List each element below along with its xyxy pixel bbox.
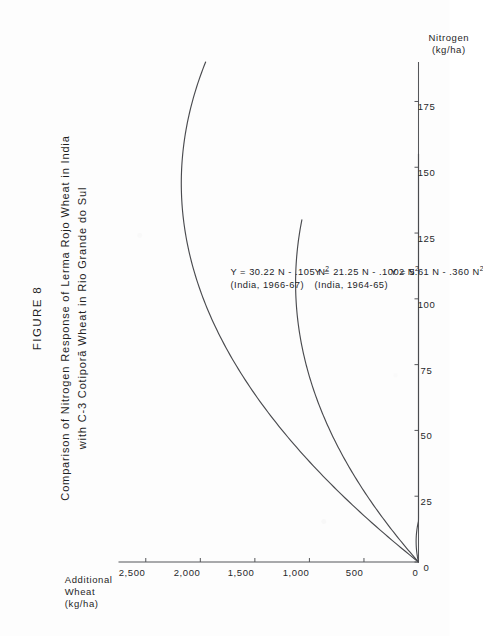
- x-axis-tick-label: 125: [417, 233, 435, 244]
- curve-series-1: [181, 62, 418, 562]
- x-axis-title-line-1: Nitrogen: [428, 32, 469, 44]
- y-axis-tick-label: 0: [412, 567, 418, 578]
- y-axis-tick-label: 1,000: [282, 567, 309, 578]
- y-axis-title-line-2: Wheat: [64, 586, 112, 598]
- x-axis-tick-label: 175: [417, 101, 435, 112]
- curve-series-3: [416, 154, 418, 562]
- x-axis-title-line-2: (kg/ha): [428, 44, 469, 56]
- annotation-source: (India, 1964-65): [314, 279, 419, 292]
- caption-line-2: with C-3 Cotiporã Wheat in Rio Grande do…: [73, 0, 90, 636]
- annotation-exponent: 2: [479, 265, 483, 272]
- x-axis-tick-label: 75: [420, 365, 432, 376]
- y-axis-tick-label: 2,000: [173, 567, 200, 578]
- y-axis-tick-label: 1,500: [228, 567, 255, 578]
- x-axis-tick-label: 50: [420, 430, 432, 441]
- figure-caption: Comparison of Nitrogen Response of Lerma…: [56, 0, 90, 636]
- x-axis-tick-label: 0: [423, 562, 429, 573]
- y-axis-tick-label: 500: [346, 567, 364, 578]
- chart-canvas: [118, 62, 418, 562]
- x-axis-title: Nitrogen (kg/ha): [428, 32, 469, 56]
- x-axis-tick-label: 25: [420, 496, 432, 507]
- annotation-equation: Y = 5.61 N - .360 N2: [390, 262, 483, 279]
- plot-area: 0255075100125150175 05001,0001,5002,0002…: [118, 62, 418, 562]
- figure-number-label: FIGURE 8: [30, 0, 42, 636]
- x-axis-tick-label: 150: [417, 167, 435, 178]
- x-axis-tick-label: 100: [417, 299, 435, 310]
- y-axis-title: Additional Wheat (kg/ha): [64, 574, 112, 610]
- y-axis-title-line-3: (kg/ha): [64, 598, 112, 610]
- curve-annotation-3: Y = 5.61 N - .360 N2: [390, 262, 483, 279]
- y-axis-title-line-1: Additional: [64, 574, 112, 586]
- caption-line-1: Comparison of Nitrogen Response of Lerma…: [56, 0, 73, 636]
- y-axis-tick-label: 2,500: [118, 567, 145, 578]
